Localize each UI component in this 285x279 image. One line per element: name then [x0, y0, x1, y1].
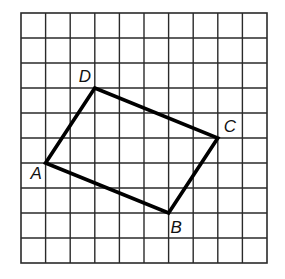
vertex-label-a: A: [30, 164, 42, 183]
grid-diagram: A B C D: [0, 0, 285, 279]
rectangle-abcd: [46, 88, 218, 213]
vertex-label-b: B: [171, 218, 182, 237]
square-grid: [21, 13, 267, 263]
vertex-label-d: D: [79, 67, 91, 86]
vertex-label-c: C: [224, 117, 237, 136]
vertex-labels: A B C D: [30, 67, 237, 237]
